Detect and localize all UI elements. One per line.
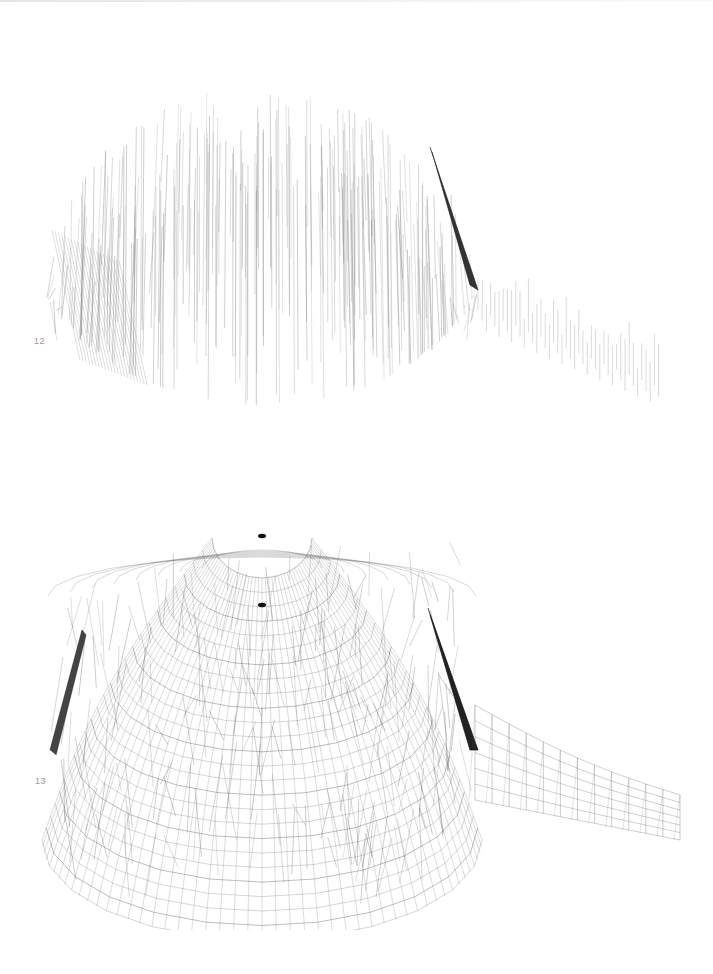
vertical-member bbox=[383, 131, 386, 205]
left-panel-member bbox=[106, 256, 134, 381]
vertical-member bbox=[436, 274, 439, 341]
diagonal-brace bbox=[381, 588, 386, 667]
diagonal-brace bbox=[150, 661, 152, 703]
diagonal-brace bbox=[199, 633, 200, 706]
diagonal-brace bbox=[265, 653, 269, 711]
vertical-member bbox=[305, 136, 306, 322]
diagonal-brace bbox=[354, 576, 366, 598]
vertical-member bbox=[409, 162, 413, 349]
vertical-member bbox=[400, 161, 402, 351]
lattice-meridian bbox=[54, 551, 215, 872]
vertical-member bbox=[398, 206, 403, 279]
diagonal-brace bbox=[160, 763, 172, 785]
diagonal-brace bbox=[308, 545, 312, 599]
vertical-member bbox=[322, 190, 324, 399]
vertical-member bbox=[203, 134, 205, 306]
diagonal-brace bbox=[250, 811, 258, 870]
diagonal-brace bbox=[104, 718, 108, 773]
vertical-member bbox=[464, 308, 471, 332]
diagonal-brace bbox=[434, 767, 443, 833]
lattice-meridian bbox=[79, 560, 220, 895]
lattice-meridian bbox=[72, 558, 219, 890]
diagonal-brace bbox=[71, 597, 73, 628]
vertical-member bbox=[163, 213, 164, 387]
diagonal-brace bbox=[94, 782, 105, 860]
lattice-meridian bbox=[284, 574, 359, 930]
wing-brace bbox=[469, 705, 475, 800]
diagonal-brace bbox=[321, 803, 324, 823]
vertical-member bbox=[364, 159, 366, 220]
top-page-rule bbox=[0, 0, 713, 2]
vertical-member bbox=[338, 109, 339, 192]
diagonal-brace bbox=[435, 678, 438, 727]
vertical-member bbox=[471, 296, 475, 323]
diagonal-brace bbox=[243, 721, 256, 750]
diagonal-brace bbox=[376, 818, 387, 897]
diagonal-brace bbox=[215, 583, 218, 635]
diagonal-brace bbox=[369, 552, 370, 596]
vertical-member bbox=[452, 235, 454, 324]
diagonal-brace bbox=[428, 646, 437, 711]
vertical-member bbox=[286, 105, 287, 225]
diagonal-brace bbox=[97, 600, 102, 646]
diagonal-brace bbox=[182, 607, 184, 639]
apex-node bbox=[258, 534, 266, 538]
vertical-member bbox=[297, 180, 298, 370]
diagonal-brace bbox=[204, 637, 210, 689]
vertical-member bbox=[390, 144, 392, 348]
left-dark-edge bbox=[50, 630, 86, 755]
diagonal-brace bbox=[231, 561, 240, 631]
diagonal-brace bbox=[68, 712, 71, 767]
lattice-meridian bbox=[307, 556, 460, 885]
left-panel-member bbox=[62, 235, 90, 364]
vertical-member bbox=[178, 107, 181, 277]
diagonal-brace bbox=[155, 724, 168, 744]
vertical-member bbox=[225, 141, 226, 328]
vertical-member bbox=[142, 128, 144, 331]
vertical-member bbox=[348, 220, 351, 345]
diagonal-brace bbox=[432, 582, 439, 602]
diagonal-brace bbox=[413, 572, 419, 618]
lattice-meridian bbox=[178, 575, 243, 930]
figure-13-drawing bbox=[0, 500, 713, 930]
vertical-member bbox=[161, 109, 165, 182]
diagonal-brace bbox=[81, 824, 87, 859]
diagonal-brace bbox=[215, 642, 224, 692]
diagonal-brace bbox=[183, 697, 194, 765]
vertical-member bbox=[62, 226, 65, 315]
diagonal-brace bbox=[225, 742, 236, 819]
diagonal-brace bbox=[85, 761, 96, 828]
vertical-member bbox=[358, 187, 359, 289]
diagonal-brace bbox=[394, 661, 399, 741]
left-panel-member bbox=[71, 239, 99, 367]
diagonal-brace bbox=[164, 835, 179, 867]
diagonal-brace bbox=[209, 710, 224, 740]
lattice-meridian bbox=[281, 575, 346, 930]
lattice-meridian bbox=[106, 566, 226, 910]
diagonal-brace bbox=[327, 790, 340, 849]
diagonal-brace bbox=[248, 607, 251, 657]
lattice-meridian bbox=[305, 558, 452, 890]
diagonal-brace bbox=[329, 701, 335, 740]
diagonal-brace bbox=[399, 779, 407, 810]
vertical-member bbox=[158, 175, 160, 369]
diagonal-brace bbox=[340, 773, 346, 811]
diagonal-brace bbox=[288, 722, 295, 766]
diagonal-brace bbox=[175, 585, 185, 652]
vertical-member bbox=[230, 169, 231, 235]
diagonal-brace bbox=[453, 589, 455, 646]
vertical-member bbox=[282, 163, 283, 314]
lattice-meridian bbox=[275, 577, 319, 930]
diagonal-brace bbox=[450, 542, 461, 565]
diagonal-brace bbox=[329, 546, 341, 604]
diagonal-brace bbox=[315, 626, 316, 652]
vertical-member bbox=[153, 216, 155, 384]
vertical-member bbox=[434, 195, 435, 279]
diagonal-brace bbox=[87, 598, 99, 666]
vertical-member bbox=[294, 187, 295, 394]
diagonal-brace bbox=[357, 799, 359, 866]
diagonal-brace bbox=[343, 784, 354, 858]
right-dark-edge bbox=[428, 608, 478, 750]
vertical-member bbox=[240, 184, 241, 379]
vertical-member bbox=[371, 220, 372, 337]
